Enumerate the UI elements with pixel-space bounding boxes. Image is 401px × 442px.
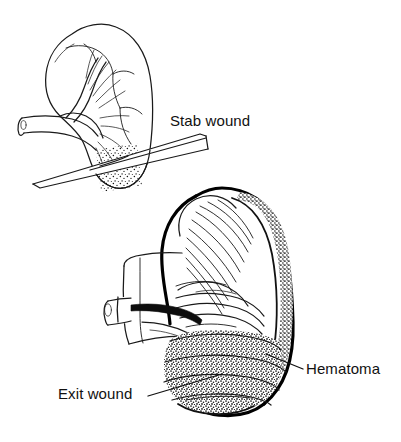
kidney-trauma-figure: Stab wound Hematoma Exit wound: [0, 0, 401, 442]
label-hematoma: Hematoma: [306, 360, 381, 377]
label-stab-wound: Stab wound: [170, 112, 250, 129]
illustration-canvas: Stab wound Hematoma Exit wound: [0, 0, 401, 442]
label-exit-wound: Exit wound: [58, 385, 132, 402]
